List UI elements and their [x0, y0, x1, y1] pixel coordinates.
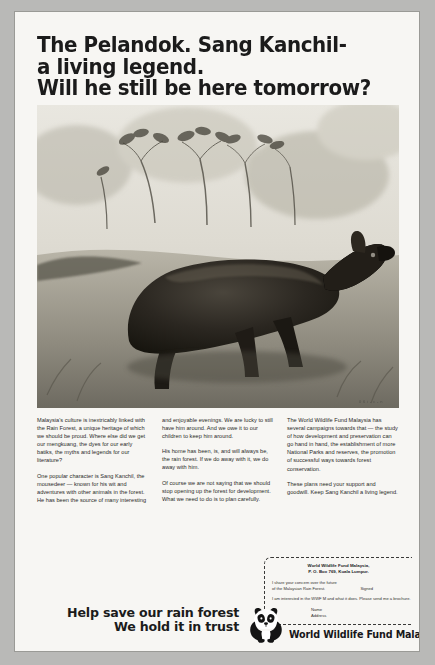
poster-page: The Pelandok. Sang Kanchil- a living leg… [14, 11, 420, 652]
coupon-address-line-2: P. O. Box 769, Kuala Lumpur. [308, 569, 368, 574]
slogan: Help save our rain forest We hold it in … [39, 606, 239, 634]
coupon-brochure-line: I am interested in the WWF M and what it… [272, 596, 412, 602]
coupon-pledge-line-2: of the Malaysian Rain Forest. [272, 586, 325, 591]
wwf-logo-lockup: World Wildlife Fund Malaysia [246, 604, 420, 644]
headline-line-2: a living legend. [37, 57, 398, 79]
body-column-1: Malaysia's culture is inextricably linke… [37, 416, 149, 511]
body-paragraph: These plans need your support and goodwi… [287, 480, 399, 496]
mousedeer-photograph: 0 6 i - c - n [37, 105, 399, 408]
slogan-line-2: We hold it in trust [39, 620, 239, 634]
slogan-line-1: Help save our rain forest [39, 606, 239, 620]
headline-line-3: Will he still be here tomorrow? [37, 78, 398, 100]
body-paragraph: Malaysia's culture is inextricably linke… [37, 416, 149, 465]
body-paragraph: and enjoyable evenings. We are lucky to … [162, 416, 274, 440]
coupon-pledge-line-2-row: of the Malaysian Rain Forest. Signed [272, 586, 412, 592]
body-column-2: and enjoyable evenings. We are lucky to … [162, 416, 274, 511]
body-paragraph: The World Wildlife Fund Malaysia has sev… [287, 416, 399, 473]
coupon-address: World Wildlife Fund Malaysia, P. O. Box … [265, 563, 412, 574]
body-paragraph: One popular character is Sang Kanchil, t… [37, 472, 149, 504]
body-columns: Malaysia's culture is inextricably linke… [37, 416, 409, 511]
body-column-3: The World Wildlife Fund Malaysia has sev… [287, 416, 399, 511]
mousedeer-photo-illustration [37, 105, 399, 408]
wwf-wordmark: World Wildlife Fund Malaysia [289, 629, 420, 644]
panda-icon [246, 604, 286, 644]
body-paragraph: His home has been, is, and will always b… [162, 447, 274, 471]
body-paragraph: Of course we are not saying that we shou… [162, 479, 274, 503]
photo-credit: 0 6 i - c - n [359, 399, 383, 404]
coupon-address-line-1: World Wildlife Fund Malaysia, [308, 563, 370, 568]
coupon-pledge: I share your concern over the future of … [265, 580, 412, 592]
headline-line-1: The Pelandok. Sang Kanchil- [37, 35, 398, 57]
coupon-signed-label: Signed [360, 586, 373, 592]
headline: The Pelandok. Sang Kanchil- a living leg… [37, 35, 409, 100]
